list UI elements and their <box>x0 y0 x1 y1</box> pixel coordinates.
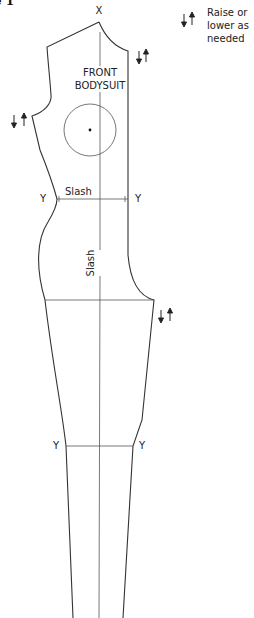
bust-point <box>89 129 92 132</box>
legend: Raise or lower as needed <box>207 6 249 45</box>
top-mark-x: X <box>96 6 103 16</box>
pattern-outline <box>32 22 154 618</box>
legend-arrows-icon <box>182 12 195 27</box>
center-line <box>99 276 100 618</box>
bodysuit-pattern-diagram <box>0 0 254 618</box>
waist-left-mark: Y <box>40 194 46 204</box>
pattern-name-line1: FRONT <box>82 68 118 78</box>
raise-lower-arrows-icon <box>159 308 173 323</box>
legend-line: needed <box>207 32 249 45</box>
waist-right-mark: Y <box>135 194 141 204</box>
knee-left-mark: Y <box>53 441 59 451</box>
vertical-slash-label: Slash <box>86 249 96 278</box>
pattern-name-line2: BODYSUIT <box>74 81 127 91</box>
waist-slash-label: Slash <box>65 187 92 197</box>
legend-line: Raise or <box>207 6 249 19</box>
legend-line: lower as <box>207 19 249 32</box>
raise-lower-arrows-icon <box>12 113 27 128</box>
knee-right-mark: Y <box>139 441 145 451</box>
raise-lower-arrows-icon <box>137 49 149 64</box>
